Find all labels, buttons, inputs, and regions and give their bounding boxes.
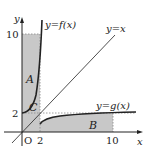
x-tick-10: 10 — [106, 135, 119, 146]
curve-g-label: y=g(x) — [95, 100, 130, 111]
x-axis-arrow-icon — [137, 130, 143, 134]
y-axis-label: y — [13, 13, 20, 24]
region-B-shade — [40, 113, 113, 132]
region-C-label: C — [29, 101, 38, 114]
origin-label: O — [24, 135, 32, 146]
y-tick-10: 10 — [6, 29, 19, 40]
y-axis-arrow-icon — [20, 17, 24, 23]
x-tick-2: 2 — [37, 135, 43, 146]
graph-diagram: y x O 2 10 2 10 y=f(x) y=x y=g(x) A B C — [0, 0, 147, 150]
region-B-label: B — [88, 119, 97, 132]
x-axis-label: x — [137, 136, 143, 147]
y-tick-2: 2 — [12, 108, 18, 119]
curve-f-label: y=f(x) — [44, 19, 76, 30]
region-A-label: A — [25, 73, 34, 86]
curve-identity-label: y=x — [105, 23, 126, 34]
